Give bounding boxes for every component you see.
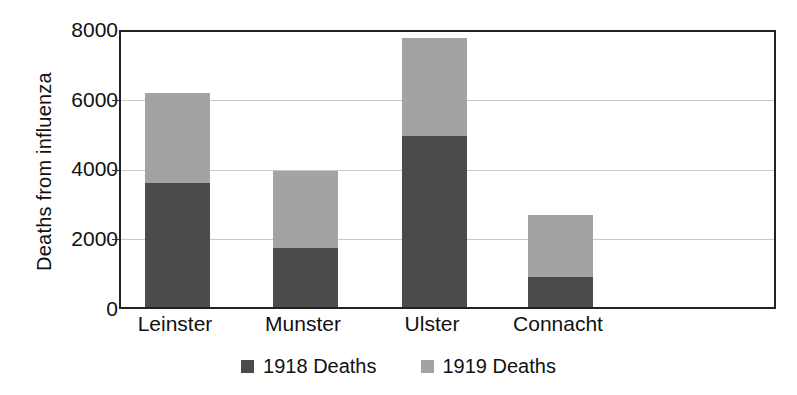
bar-segment-1919-ulster[interactable] [402, 38, 467, 136]
legend-label-1919: 1919 Deaths [443, 356, 556, 376]
bar-group-connacht[interactable] [528, 215, 593, 307]
y-tick-label-4000: 4000 [52, 158, 118, 179]
bar-segment-1919-connacht[interactable] [528, 215, 593, 277]
y-tick-mark-4000 [112, 170, 119, 171]
y-axis-tick-labels: 8000 6000 4000 2000 0 [44, 0, 118, 395]
legend-swatch-icon-1918 [241, 360, 254, 373]
x-tick-label-munster: Munster [238, 313, 368, 334]
y-tick-mark-2000 [112, 239, 119, 240]
legend-item-1919[interactable]: 1919 Deaths [421, 356, 556, 376]
x-tick-label-connacht: Connacht [493, 313, 623, 334]
bar-segment-1918-ulster[interactable] [402, 136, 467, 307]
legend-label-1918: 1918 Deaths [263, 356, 376, 376]
y-tick-label-2000: 2000 [52, 228, 118, 249]
x-tick-label-ulster: Ulster [367, 313, 497, 334]
bar-segment-1919-leinster[interactable] [145, 93, 210, 183]
chart-legend: 1918 Deaths 1919 Deaths [0, 356, 797, 376]
bar-segment-1918-munster[interactable] [273, 248, 338, 307]
chart-container: Deaths from influenza 8000 6000 4000 200… [0, 0, 797, 395]
bar-segment-1918-leinster[interactable] [145, 183, 210, 307]
bar-group-ulster[interactable] [402, 38, 467, 307]
x-tick-label-leinster: Leinster [110, 313, 240, 334]
y-tick-label-8000: 8000 [52, 19, 118, 40]
legend-item-1918[interactable]: 1918 Deaths [241, 356, 376, 376]
plot-area [119, 30, 776, 309]
legend-swatch-icon-1919 [421, 360, 434, 373]
x-axis-tick-labels: Leinster Munster Ulster Connacht [119, 313, 776, 343]
bar-group-munster[interactable] [273, 171, 338, 307]
y-tick-label-6000: 6000 [52, 89, 118, 110]
bars-layer [121, 32, 774, 307]
bar-segment-1918-connacht[interactable] [528, 277, 593, 307]
y-tick-mark-6000 [112, 100, 119, 101]
bar-segment-1919-munster[interactable] [273, 171, 338, 248]
bar-group-leinster[interactable] [145, 93, 210, 307]
y-tick-label-0: 0 [52, 298, 118, 319]
